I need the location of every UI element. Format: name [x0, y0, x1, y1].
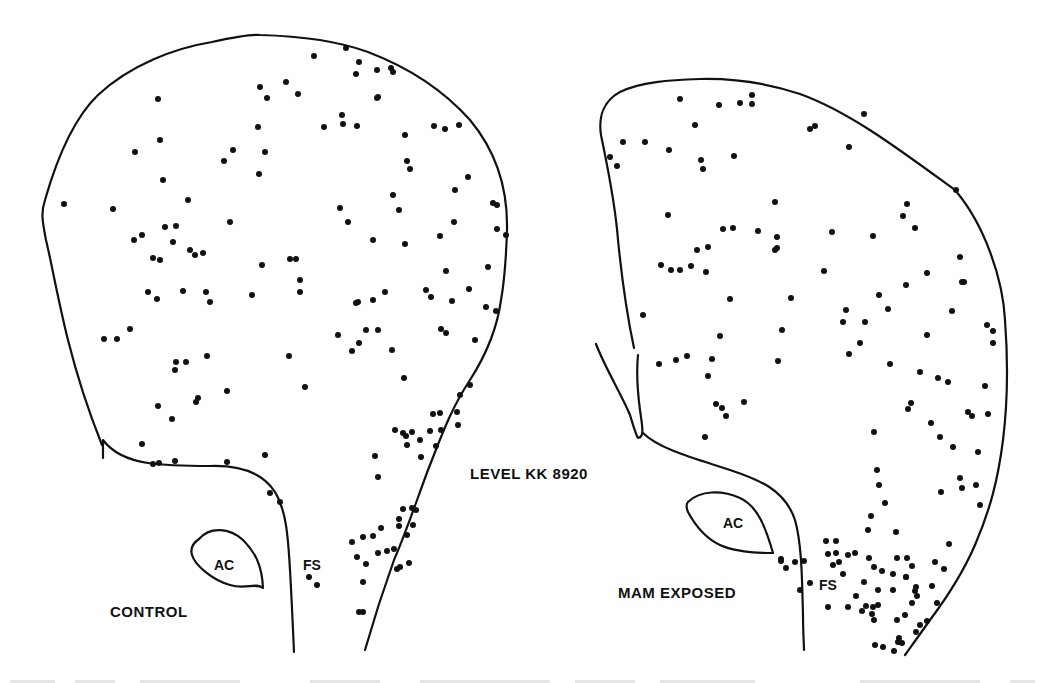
cell-dot [840, 319, 846, 325]
cell-dot [640, 312, 646, 318]
cell-dot [890, 571, 896, 577]
cell-dot [311, 53, 317, 59]
cell-dot [946, 541, 952, 547]
cell-dot [812, 123, 818, 129]
cell-dot [110, 206, 116, 212]
cell-dot [891, 648, 897, 654]
cell-dot [397, 564, 403, 570]
cell-dot [737, 100, 743, 106]
cell-dot [114, 336, 120, 342]
cell-dot [902, 612, 908, 618]
cell-dot [374, 67, 380, 73]
cell-dot [150, 461, 156, 467]
cell-dot [306, 574, 312, 580]
cell-dot [797, 587, 803, 593]
cell-dot [614, 163, 620, 169]
cell-dot [775, 358, 781, 364]
cell-dot [692, 122, 698, 128]
cell-dot [154, 296, 160, 302]
cell-dot [792, 559, 798, 565]
cell-dot [862, 319, 868, 325]
cell-dot [169, 416, 175, 422]
cell-dot [378, 525, 384, 531]
cell-dot [443, 330, 449, 336]
cell-dot [375, 474, 381, 480]
level-label: LEVEL KK 8920 [470, 466, 588, 481]
cell-dot [900, 213, 906, 219]
cell-dot [941, 566, 947, 572]
cell-dot [485, 264, 491, 270]
cell-dot [370, 237, 376, 243]
cell-dot [384, 548, 390, 554]
cell-dot [255, 124, 261, 130]
cell-dot [874, 467, 880, 473]
cell-dot [224, 459, 230, 465]
cell-dot [400, 506, 406, 512]
cell-dot [845, 552, 851, 558]
cell-dot [295, 91, 301, 97]
cell-dot [904, 201, 910, 207]
cell-dot [836, 559, 842, 565]
cell-dot [363, 561, 369, 567]
cell-dot [407, 166, 413, 172]
cell-dot [887, 361, 893, 367]
cell-dot [132, 149, 138, 155]
cell-dot [413, 507, 419, 513]
cell-dot [494, 226, 500, 232]
cell-dot [356, 59, 362, 65]
cell-dot [455, 422, 461, 428]
cell-dot [703, 269, 709, 275]
cell-dot [904, 555, 910, 561]
cell-dot [277, 499, 283, 505]
cell-dot [375, 550, 381, 556]
control-section [42, 35, 507, 652]
cell-dot [267, 490, 273, 496]
cell-dot [866, 555, 872, 561]
cell-dot [694, 247, 700, 253]
cell-dot [375, 327, 381, 333]
cell-dot [437, 233, 443, 239]
cell-dot [438, 427, 444, 433]
figure-caption-cropped [0, 672, 1042, 683]
cell-dot [949, 308, 955, 314]
cell-dot [840, 571, 846, 577]
cell-dot [924, 270, 930, 276]
cell-dot [857, 340, 863, 346]
cell-dot [335, 332, 341, 338]
cell-dot [204, 353, 210, 359]
cell-dot [402, 132, 408, 138]
cell-dot [665, 212, 671, 218]
cell-dot [845, 604, 851, 610]
cell-dot [950, 444, 956, 450]
cell-dot [428, 294, 434, 300]
cell-dot [705, 244, 711, 250]
mam-group-label: MAM EXPOSED [618, 585, 736, 600]
cell-dot [227, 219, 233, 225]
cell-dot [363, 327, 369, 333]
mam-ventricle-line [596, 344, 804, 650]
cell-dot [853, 593, 859, 599]
cell-dot [406, 560, 412, 566]
cell-dot [467, 382, 473, 388]
cell-dot [717, 333, 723, 339]
cell-dot [698, 157, 704, 163]
cell-dot [982, 383, 988, 389]
cell-dot [390, 192, 396, 198]
cell-dot [170, 239, 176, 245]
cell-dot [973, 482, 979, 488]
cell-dot [392, 427, 398, 433]
cell-dot [221, 158, 227, 164]
cell-dot [438, 326, 444, 332]
cell-dot [702, 434, 708, 440]
cell-dot [349, 348, 355, 354]
cell-dot [893, 529, 899, 535]
cell-dot [172, 367, 178, 373]
cell-dot [909, 600, 915, 606]
cell-dot [396, 516, 402, 522]
cell-dot [894, 617, 900, 623]
cell-dot [879, 568, 885, 574]
cell-dot [404, 532, 410, 538]
cell-dot [355, 299, 361, 305]
cell-dot [807, 126, 813, 132]
cell-dot [905, 406, 911, 412]
